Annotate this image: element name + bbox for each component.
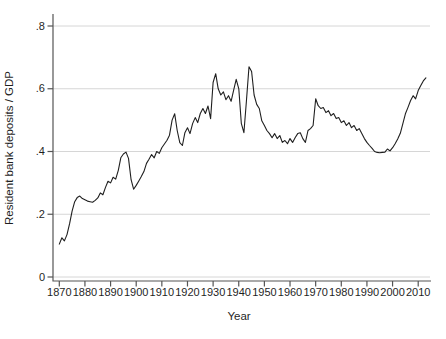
x-tick-label: 1990	[355, 286, 379, 298]
axis-lines	[53, 14, 431, 281]
x-axis-ticks: 1870188018901900191019201930194019501960…	[47, 281, 430, 298]
y-tick-label: .8	[36, 20, 45, 32]
y-tick-label: .6	[36, 82, 45, 94]
x-tick-label: 1890	[98, 286, 122, 298]
y-tick-label: .4	[36, 145, 45, 157]
x-tick-label: 1980	[329, 286, 353, 298]
y-tick-label: .2	[36, 208, 45, 220]
x-axis-title: Year	[227, 310, 250, 322]
x-tick-label: 1960	[278, 286, 302, 298]
y-axis-ticks: 0.2.4.6.8	[36, 20, 53, 283]
x-tick-label: 1950	[252, 286, 276, 298]
x-tick-label: 1940	[227, 286, 251, 298]
series-line	[59, 67, 426, 244]
x-tick-label: 1870	[47, 286, 71, 298]
x-tick-label: 2000	[380, 286, 404, 298]
deposits-gdp-line-chart: 1870188018901900191019201930194019501960…	[0, 0, 446, 339]
x-tick-label: 1930	[201, 286, 225, 298]
chart-figure: 1870188018901900191019201930194019501960…	[0, 0, 446, 339]
x-tick-label: 1910	[150, 286, 174, 298]
gridlines	[53, 26, 430, 277]
x-tick-label: 1880	[73, 286, 97, 298]
x-tick-label: 2010	[406, 286, 430, 298]
data-series	[59, 67, 426, 244]
x-tick-label: 1970	[303, 286, 327, 298]
axes	[53, 14, 431, 281]
x-tick-label: 1920	[175, 286, 199, 298]
y-axis-title: Resident bank deposits / GDP	[3, 71, 15, 225]
x-tick-label: 1900	[124, 286, 148, 298]
y-tick-label: 0	[39, 271, 45, 283]
